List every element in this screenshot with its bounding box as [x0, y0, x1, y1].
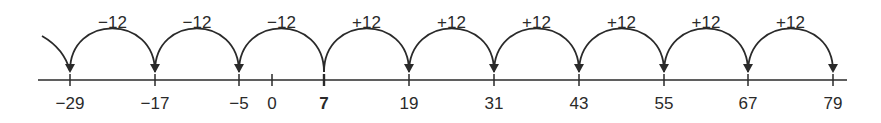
number-line-diagram: −29−17−507193143556779 −12−12−12+12+12+1… [0, 0, 881, 123]
jump-labels-group: −12−12−12+12+12+12+12+12+12 [98, 13, 805, 32]
tick-label: −5 [229, 94, 248, 113]
jump-arcs-group [42, 28, 833, 72]
jump-label: +12 [607, 13, 636, 32]
jump-arc [239, 28, 324, 72]
tick-label: 0 [267, 94, 276, 113]
tick-label: 79 [824, 94, 843, 113]
jump-label: +12 [692, 13, 721, 32]
tick-label: 31 [485, 94, 504, 113]
tick-label: −17 [141, 94, 170, 113]
jump-label: +12 [776, 13, 805, 32]
tick-label: 19 [400, 94, 419, 113]
jump-arc [155, 28, 239, 72]
jump-arc [494, 28, 579, 72]
tick-labels-group: −29−17−507193143556779 [56, 94, 843, 113]
tick-label: 55 [655, 94, 674, 113]
jump-arc [748, 28, 833, 72]
jump-label: +12 [437, 13, 466, 32]
jump-label: +12 [522, 13, 551, 32]
jump-arc [70, 28, 155, 72]
jump-label: −12 [183, 13, 212, 32]
jump-label: −12 [98, 13, 127, 32]
jump-arc [579, 28, 664, 72]
tick-label: 67 [739, 94, 758, 113]
jump-arc [409, 28, 494, 72]
partial-arc [42, 36, 70, 71]
jump-label: −12 [267, 13, 296, 32]
jump-arc [664, 28, 748, 72]
jump-arc [324, 28, 409, 72]
tick-label: 7 [319, 94, 328, 113]
jump-label: +12 [352, 13, 381, 32]
tick-label: 43 [570, 94, 589, 113]
tick-label: −29 [56, 94, 85, 113]
